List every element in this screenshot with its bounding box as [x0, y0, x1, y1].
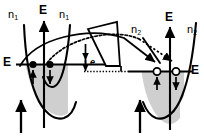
diagram-canvas	[0, 0, 204, 139]
label-n2-outer: n2	[187, 24, 197, 35]
label-n1-inner: n1	[59, 9, 69, 20]
left-conduction-arc	[20, 33, 124, 66]
label-n1-outer: n1	[8, 9, 18, 20]
label-E-right-axis: E	[165, 11, 173, 23]
band-diagram-figure: n1 E n1 n2 E n2 E E e	[0, 0, 204, 139]
label-E-left-energy: E	[3, 56, 11, 68]
label-barrier-offset-e: e	[90, 58, 95, 67]
left-well-fill	[26, 65, 69, 116]
label-n2-inner: n2	[131, 24, 141, 35]
right-well-fill	[142, 72, 185, 124]
label-E-right-energy: E	[191, 64, 199, 76]
label-E-left-axis: E	[39, 4, 47, 16]
